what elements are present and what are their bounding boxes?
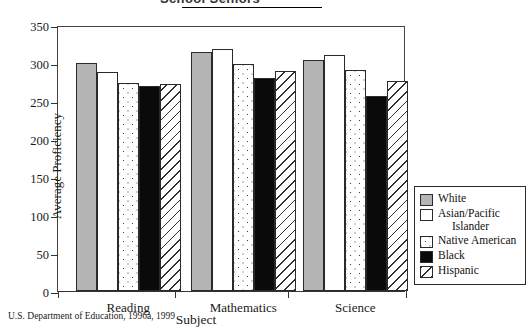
y-tick-label: 0 <box>43 287 49 300</box>
legend-item[interactable]: Hispanic <box>420 264 521 278</box>
bar-group <box>76 27 184 291</box>
solid-gray-swatch <box>420 194 433 206</box>
chart-legend: WhiteAsian/PacificIslanderNative America… <box>414 186 526 285</box>
bar <box>303 60 324 291</box>
bar-group <box>191 27 299 291</box>
bars-layer <box>58 27 404 291</box>
x-tick-mark <box>288 291 289 298</box>
y-tick-mark <box>51 27 58 28</box>
y-tick-mark <box>51 65 58 66</box>
y-tick-label: 250 <box>30 97 49 110</box>
y-tick-mark <box>51 103 58 104</box>
legend-item-label-continued: Islander <box>438 220 500 233</box>
source-footnote: U.S. Department of Education, 1996a, 199… <box>8 311 175 321</box>
bar <box>160 84 181 291</box>
bar <box>366 96 387 291</box>
x-tick-label: Mathematics <box>210 300 277 316</box>
dotted-swatch <box>420 236 433 248</box>
bar-group <box>303 27 411 291</box>
legend-item[interactable]: Asian/PacificIslander <box>420 207 521 233</box>
bar <box>212 49 233 291</box>
bar <box>324 55 345 291</box>
plot-area: 350300250200150100500 ReadingMathematics… <box>57 26 405 292</box>
y-tick-label: 200 <box>30 135 49 148</box>
legend-item-label: Native American <box>438 234 516 247</box>
x-axis-label: Subject <box>176 312 217 328</box>
bar <box>275 71 296 291</box>
solid-black-swatch <box>420 251 433 263</box>
bar <box>191 52 212 291</box>
bar <box>254 78 275 291</box>
y-tick-label: 350 <box>30 21 49 34</box>
y-axis-label: Average Proficiency <box>49 113 65 219</box>
bar <box>387 81 408 291</box>
x-tick-mark <box>175 291 176 298</box>
y-tick-mark <box>51 293 58 294</box>
legend-item-label: Black <box>438 249 465 262</box>
legend-item-label: Hispanic <box>438 264 479 277</box>
legend-item[interactable]: Native American <box>420 234 521 248</box>
x-tick-label: Science <box>335 300 375 316</box>
legend-item-label: Asian/PacificIslander <box>438 207 500 233</box>
title-underline-rule <box>182 7 322 8</box>
bar <box>345 70 366 291</box>
y-tick-mark <box>51 255 58 256</box>
legend-item[interactable]: Black <box>420 249 521 263</box>
bar <box>233 64 254 291</box>
bar <box>76 63 97 291</box>
y-tick-label: 300 <box>30 59 49 72</box>
diagonal-hatch-swatch <box>420 266 433 278</box>
bar <box>97 72 118 291</box>
bar <box>139 86 160 291</box>
y-tick-label: 50 <box>37 249 50 262</box>
bar <box>118 83 139 291</box>
legend-item[interactable]: White <box>420 192 521 206</box>
legend-item-label: White <box>438 192 466 205</box>
x-tick-mark <box>406 291 407 298</box>
y-tick-label: 100 <box>30 211 49 224</box>
y-tick-label: 150 <box>30 173 49 186</box>
x-tick-mark <box>58 291 59 298</box>
chart-title: School Seniors <box>0 0 420 6</box>
white-swatch <box>420 209 433 221</box>
